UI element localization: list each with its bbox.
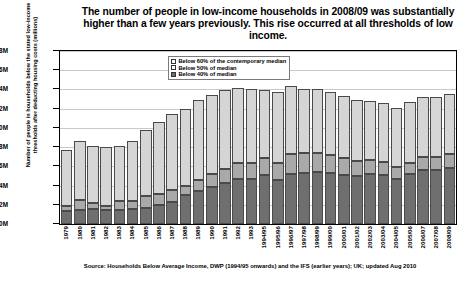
- bar-segment-below40[interactable]: [364, 174, 376, 224]
- bar-segment-below60[interactable]: [61, 150, 73, 206]
- bar-segment-below60[interactable]: [87, 146, 99, 203]
- bar-segment-below40[interactable]: [351, 176, 363, 224]
- bar-segment-below60[interactable]: [378, 103, 390, 162]
- bar-segment-below50[interactable]: [285, 154, 297, 174]
- bar-segment-below50[interactable]: [166, 190, 178, 202]
- bar-column[interactable]: [338, 51, 350, 224]
- bar-segment-below50[interactable]: [325, 155, 337, 173]
- bar-column[interactable]: [298, 51, 310, 224]
- bar-segment-below40[interactable]: [312, 172, 324, 224]
- bar-segment-below40[interactable]: [430, 170, 442, 224]
- bar-segment-below40[interactable]: [259, 175, 271, 224]
- bar-segment-below50[interactable]: [259, 158, 271, 175]
- bar-segment-below60[interactable]: [114, 146, 126, 201]
- bar-segment-below50[interactable]: [378, 162, 390, 175]
- bar-segment-below60[interactable]: [219, 90, 231, 169]
- bar-segment-below60[interactable]: [74, 141, 86, 200]
- bar-segment-below40[interactable]: [140, 208, 152, 224]
- bar-segment-below40[interactable]: [87, 209, 99, 224]
- bar-segment-below50[interactable]: [127, 201, 139, 209]
- bar-column[interactable]: [153, 51, 165, 224]
- bar-segment-below40[interactable]: [166, 202, 178, 224]
- bar-segment-below50[interactable]: [430, 157, 442, 170]
- bar-segment-below40[interactable]: [232, 179, 244, 224]
- bar-segment-below60[interactable]: [338, 96, 350, 158]
- bar-column[interactable]: [87, 51, 99, 224]
- bar-segment-below60[interactable]: [193, 100, 205, 180]
- bar-segment-below40[interactable]: [180, 195, 192, 224]
- bar-column[interactable]: [100, 51, 112, 224]
- bar-segment-below50[interactable]: [74, 200, 86, 210]
- bar-segment-below50[interactable]: [246, 163, 258, 179]
- bar-segment-below40[interactable]: [378, 175, 390, 224]
- bar-segment-below40[interactable]: [417, 170, 429, 224]
- bar-segment-below60[interactable]: [444, 94, 456, 154]
- bar-segment-below40[interactable]: [100, 210, 112, 224]
- bar-segment-below50[interactable]: [364, 160, 376, 174]
- bar-column[interactable]: [325, 51, 337, 224]
- bar-column[interactable]: [364, 51, 376, 224]
- bar-segment-below60[interactable]: [246, 89, 258, 163]
- bar-segment-below50[interactable]: [417, 157, 429, 170]
- legend-item[interactable]: Below 60% of the contemporary median: [171, 58, 286, 65]
- bar-segment-below60[interactable]: [364, 101, 376, 160]
- bar-column[interactable]: [61, 51, 73, 224]
- bar-segment-below60[interactable]: [259, 90, 271, 157]
- bar-segment-below50[interactable]: [391, 167, 403, 179]
- bar-segment-below60[interactable]: [391, 108, 403, 168]
- bar-segment-below60[interactable]: [404, 102, 416, 163]
- bar-segment-below60[interactable]: [153, 122, 165, 194]
- bar-column[interactable]: [391, 51, 403, 224]
- bar-segment-below50[interactable]: [444, 154, 456, 168]
- bar-segment-below40[interactable]: [74, 210, 86, 224]
- bar-segment-below40[interactable]: [127, 209, 139, 224]
- bar-segment-below50[interactable]: [114, 201, 126, 210]
- bar-segment-below50[interactable]: [338, 158, 350, 175]
- bar-segment-below40[interactable]: [298, 173, 310, 224]
- bar-segment-below40[interactable]: [272, 180, 284, 224]
- bar-column[interactable]: [114, 51, 126, 224]
- bar-segment-below40[interactable]: [153, 205, 165, 224]
- bar-segment-below50[interactable]: [219, 169, 231, 182]
- bar-segment-below40[interactable]: [338, 175, 350, 224]
- bar-segment-below60[interactable]: [272, 92, 284, 162]
- bar-segment-below40[interactable]: [206, 187, 218, 224]
- bar-segment-below60[interactable]: [180, 109, 192, 186]
- bar-segment-below60[interactable]: [285, 86, 297, 154]
- bar-segment-below40[interactable]: [219, 183, 231, 224]
- bar-segment-below50[interactable]: [232, 163, 244, 178]
- bar-segment-below60[interactable]: [312, 89, 324, 152]
- bar-segment-below60[interactable]: [166, 114, 178, 190]
- bar-segment-below50[interactable]: [140, 196, 152, 208]
- bar-segment-below60[interactable]: [325, 92, 337, 154]
- legend-item[interactable]: Below 50% of median: [171, 65, 286, 72]
- bar-column[interactable]: [430, 51, 442, 224]
- bar-column[interactable]: [74, 51, 86, 224]
- bar-segment-below40[interactable]: [325, 173, 337, 224]
- bar-column[interactable]: [417, 51, 429, 224]
- bar-segment-below50[interactable]: [206, 174, 218, 186]
- bar-segment-below40[interactable]: [246, 179, 258, 224]
- bar-segment-below50[interactable]: [153, 194, 165, 205]
- bar-segment-below40[interactable]: [61, 211, 73, 224]
- bar-segment-below60[interactable]: [100, 147, 112, 206]
- bar-segment-below60[interactable]: [140, 130, 152, 196]
- bar-column[interactable]: [140, 51, 152, 224]
- bar-column[interactable]: [404, 51, 416, 224]
- bar-segment-below40[interactable]: [404, 174, 416, 224]
- bar-segment-below40[interactable]: [114, 210, 126, 224]
- bar-segment-below60[interactable]: [232, 88, 244, 164]
- legend-item[interactable]: Below 40% of median: [171, 71, 286, 78]
- bar-segment-below60[interactable]: [430, 97, 442, 157]
- bar-column[interactable]: [351, 51, 363, 224]
- bar-segment-below60[interactable]: [298, 89, 310, 153]
- bar-segment-below50[interactable]: [312, 153, 324, 172]
- bar-segment-below50[interactable]: [193, 180, 205, 192]
- bar-segment-below40[interactable]: [193, 191, 205, 224]
- bar-segment-below40[interactable]: [285, 174, 297, 224]
- bar-segment-below60[interactable]: [417, 97, 429, 157]
- bar-segment-below40[interactable]: [391, 179, 403, 224]
- bar-segment-below60[interactable]: [351, 100, 363, 161]
- bar-segment-below50[interactable]: [298, 153, 310, 173]
- bar-segment-below50[interactable]: [351, 161, 363, 176]
